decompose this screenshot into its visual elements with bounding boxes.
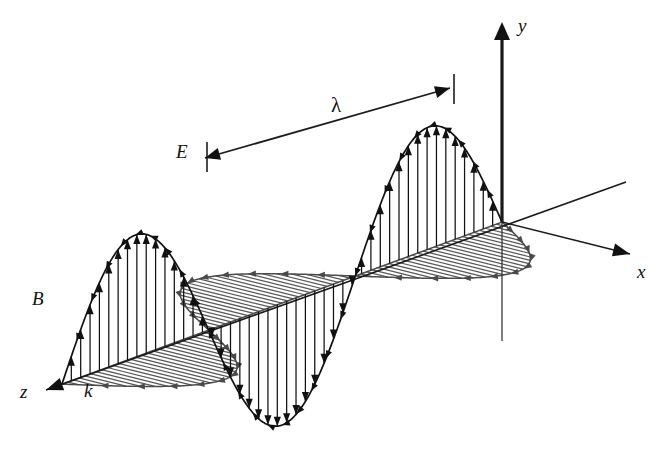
y-axis-label: y bbox=[516, 15, 527, 36]
electric-field-label: E bbox=[175, 141, 188, 162]
x-axis-label: x bbox=[636, 261, 646, 282]
magnetic-field-label: B bbox=[32, 288, 44, 309]
em-wave-diagram: y x z k E B λ bbox=[0, 0, 665, 454]
wavevector-label: k bbox=[84, 380, 93, 401]
z-axis-label: z bbox=[19, 381, 28, 402]
em-wave-figure: y x z k E B λ bbox=[0, 0, 665, 454]
wavelength-label: λ bbox=[331, 93, 342, 117]
